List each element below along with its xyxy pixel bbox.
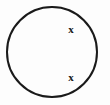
circle-diagram-svg: [0, 0, 110, 105]
circle-outline-icon: [7, 7, 97, 97]
point-label-lower: x: [68, 72, 74, 83]
point-label-upper: x: [68, 24, 74, 35]
figure-canvas: x x: [0, 0, 110, 105]
